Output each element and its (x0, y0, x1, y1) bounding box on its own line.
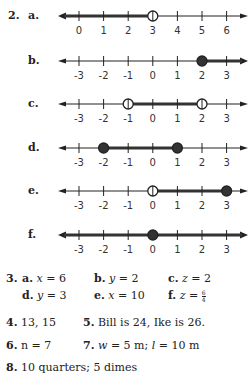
tick-label: 0 (150, 157, 156, 168)
tick-label: 1 (174, 70, 180, 81)
equation-rest: = 6 (43, 272, 66, 285)
right-arrow-icon (240, 14, 248, 19)
tick-label: 2 (199, 70, 205, 81)
number-line: -3-2-10123 (0, 51, 251, 91)
right-arrow-icon (240, 102, 248, 107)
tick-label: -3 (74, 200, 84, 211)
problem-number: 8. (6, 361, 17, 374)
number-line-row: c.-3-2-10123 (0, 94, 251, 134)
tick-label: 2 (199, 244, 205, 255)
answer-text: 13, 15 (21, 316, 56, 329)
equation-rest: = 2 (115, 272, 138, 285)
tick-label: 1 (100, 25, 106, 36)
item-letter: d. (22, 289, 34, 302)
answer-3c: c. z = 2 (168, 272, 211, 285)
answer-7: 7. w = 5 m; l = 10 m (83, 339, 199, 352)
tick-label: -3 (74, 113, 84, 124)
tick-label: 2 (199, 113, 205, 124)
tick-label: -3 (74, 70, 84, 81)
closed-circle-icon (197, 56, 207, 66)
number-line-row: a.0123456 (0, 6, 251, 46)
number-line: -3-2-10123 (0, 138, 251, 178)
closed-circle-icon (222, 186, 232, 196)
item-letter: b. (94, 272, 106, 285)
answer-5: 5. Bill is 24, Ike is 26. (83, 316, 205, 329)
item-letter: c. (168, 272, 179, 285)
tick-label: 0 (150, 200, 156, 211)
tick-label: 1 (174, 244, 180, 255)
tick-label: 3 (223, 244, 229, 255)
fraction: 64 (202, 290, 206, 303)
tick-label: 3 (223, 70, 229, 81)
tick-label: 6 (223, 25, 229, 36)
number-line: -3-2-10123 (0, 94, 251, 134)
equation-rest: = (185, 289, 201, 302)
answer-3a: a. x = 6 (22, 272, 66, 285)
tick-label: 3 (223, 113, 229, 124)
number-line: -3-2-10123 (0, 225, 251, 265)
left-arrow-icon (58, 189, 66, 194)
problem-number: 4. (6, 316, 17, 329)
right-arrow-icon (240, 189, 248, 194)
answer-3d: d. y = 3 (22, 289, 66, 302)
answer-3e: e. x = 10 (94, 289, 145, 302)
answer-text-w: = 5 m; (107, 339, 151, 352)
tick-label: -2 (99, 200, 109, 211)
problem-number: 6. (6, 339, 17, 352)
equation-rest: = 3 (43, 289, 66, 302)
item-letter: f. (168, 289, 176, 302)
tick-label: 2 (125, 25, 131, 36)
closed-circle-icon (148, 230, 158, 240)
equation-rest: = 10 (115, 289, 145, 302)
answer-3b: b. y = 2 (94, 272, 138, 285)
closed-circle-icon (99, 143, 109, 153)
tick-label: 0 (150, 113, 156, 124)
right-arrow-icon (240, 146, 248, 151)
tick-label: 4 (174, 25, 180, 36)
tick-label: 1 (174, 113, 180, 124)
number-line-row: d.-3-2-10123 (0, 138, 251, 178)
left-arrow-icon (58, 59, 66, 64)
tick-label: 2 (199, 157, 205, 168)
tick-label: 3 (223, 200, 229, 211)
problem-number: 3. (6, 272, 17, 285)
answer-text: = 7 (28, 339, 51, 352)
tick-label: -1 (123, 113, 133, 124)
tick-label: -3 (74, 244, 84, 255)
answer-4: 4. 13, 15 (6, 316, 56, 329)
tick-label: -1 (123, 70, 133, 81)
tick-label: -2 (99, 70, 109, 81)
answer-text: 10 quarters; 5 dimes (21, 361, 137, 374)
answer-3f: f. z = 64 (168, 289, 206, 303)
tick-label: -1 (123, 200, 133, 211)
variable-w: w (98, 339, 107, 352)
equation-rest: = 2 (188, 272, 211, 285)
number-line-row: f.-3-2-10123 (0, 225, 251, 265)
variable: n (21, 339, 28, 352)
tick-label: 0 (150, 70, 156, 81)
number-line-row: e.-3-2-10123 (0, 181, 251, 221)
closed-circle-icon (172, 143, 182, 153)
answer-8: 8. 10 quarters; 5 dimes (6, 361, 137, 374)
tick-label: -2 (99, 244, 109, 255)
answer-text-l: = 10 m (155, 339, 199, 352)
number-line: 0123456 (0, 6, 251, 46)
tick-label: 3 (223, 157, 229, 168)
tick-label: -1 (123, 244, 133, 255)
item-letter: a. (22, 272, 33, 285)
tick-label: 0 (76, 25, 82, 36)
tick-label: -2 (99, 157, 109, 168)
tick-label: 0 (150, 244, 156, 255)
tick-label: 5 (199, 25, 205, 36)
left-arrow-icon (58, 102, 66, 107)
tick-label: 1 (174, 157, 180, 168)
tick-label: -2 (99, 113, 109, 124)
tick-label: 3 (150, 25, 156, 36)
answer-text: Bill is 24, Ike is 26. (98, 316, 205, 329)
fraction-denominator: 4 (202, 296, 206, 303)
item-letter: e. (94, 289, 105, 302)
number-line: -3-2-10123 (0, 181, 251, 221)
tick-label: -3 (74, 157, 84, 168)
problem-number: 7. (83, 339, 94, 352)
tick-label: 2 (199, 200, 205, 211)
